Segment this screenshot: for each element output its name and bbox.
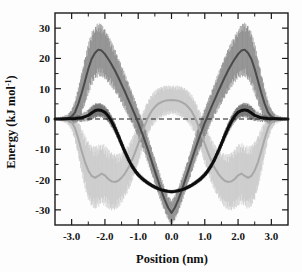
x-tick-label: 2.0 xyxy=(231,230,245,242)
y-tick-label: 30 xyxy=(39,22,51,34)
x-tick-label: 0.0 xyxy=(165,230,179,242)
energy-profile-figure: -3.0-2.0-1.00.01.02.03.0-30-20-100102030… xyxy=(0,0,302,272)
y-tick-label: 20 xyxy=(39,52,51,64)
y-axis-title-group: Energy (kJ mol-1) xyxy=(4,75,18,168)
error-bars-layer xyxy=(55,23,287,225)
y-tick-label: 10 xyxy=(39,83,51,95)
x-tick-label: -2.0 xyxy=(96,230,114,242)
y-axis-title: Energy (kJ mol-1) xyxy=(4,75,18,168)
x-tick-label: -1.0 xyxy=(130,230,148,242)
x-axis-title: Position (nm) xyxy=(136,252,208,266)
y-tick-label: -20 xyxy=(35,174,50,186)
chart-canvas: -3.0-2.0-1.00.01.02.03.0-30-20-100102030… xyxy=(0,0,302,272)
x-tick-label: -3.0 xyxy=(63,230,81,242)
x-tick-label: 1.0 xyxy=(198,230,212,242)
y-tick-label: 0 xyxy=(45,113,51,125)
y-tick-label: -30 xyxy=(35,204,50,216)
y-tick-label: -10 xyxy=(35,143,50,155)
x-tick-label: 3.0 xyxy=(264,230,278,242)
